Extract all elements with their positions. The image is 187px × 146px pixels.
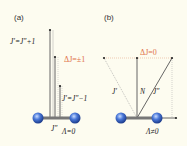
molecule-a — [33, 113, 81, 124]
lambda-label-a: Λ=0 — [61, 127, 76, 136]
bottom-j-label: J″ — [51, 124, 58, 133]
atom-icon — [152, 113, 163, 124]
upper-branch-label: J′=J″+1 — [10, 37, 35, 46]
left-vector-label: J′ — [112, 87, 117, 96]
center-vector-label: N — [139, 87, 146, 96]
diagram-canvas: (a) J′=J″+1 ΔJ=±1 J′=J″−1 J″ Λ=0 (b) ΔJ=… — [0, 0, 187, 146]
lambda-label-b: Λ≠0 — [145, 127, 159, 136]
right-vector-label: J″ — [153, 87, 160, 96]
atom-icon — [116, 113, 127, 124]
selection-rule-a: ΔJ=±1 — [64, 55, 85, 64]
atom-icon — [33, 113, 44, 124]
panel-a-label: (a) — [14, 13, 24, 22]
selection-rule-b: ΔJ=0 — [140, 48, 157, 57]
panel-a: (a) J′=J″+1 ΔJ=±1 J′=J″−1 J″ Λ=0 — [10, 13, 87, 136]
panel-b: (b) ΔJ=0 J′ N J″ Λ≠0 — [103, 13, 177, 136]
atom-icon — [70, 113, 81, 124]
j-vectors-a — [49, 29, 62, 118]
lower-branch-label: J′=J″−1 — [62, 94, 87, 103]
panel-b-label: (b) — [104, 13, 114, 22]
